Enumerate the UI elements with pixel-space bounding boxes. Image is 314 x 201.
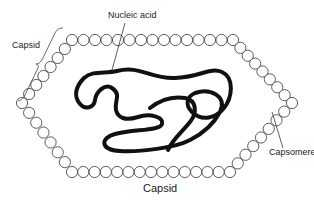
capsomere-circle xyxy=(59,157,70,168)
capsomere-circle xyxy=(38,127,49,138)
capsomere-circle xyxy=(193,34,204,45)
capsomere-circle xyxy=(45,137,56,148)
capsid-bottom-label: Capsid xyxy=(143,182,177,194)
capsomere-circle xyxy=(248,141,259,152)
capsid-side-label: Capsid xyxy=(12,40,40,50)
capsomere-circle xyxy=(89,34,100,45)
capsomere-circle xyxy=(240,149,251,160)
capsomere-circle xyxy=(101,34,112,45)
capsomere-circle xyxy=(279,106,290,117)
capsid-shell xyxy=(16,34,297,177)
capsomere-circle xyxy=(145,166,156,177)
capsomere-label: Capsomere xyxy=(269,147,314,157)
capsomere-circle xyxy=(135,34,146,45)
capsomere-circle xyxy=(157,166,168,177)
capsomere-circle xyxy=(232,158,243,169)
capsomere-circle xyxy=(263,123,274,134)
virus-structure-diagram xyxy=(0,0,314,201)
capsomere-circle xyxy=(202,166,213,177)
capsomere-circle xyxy=(89,166,100,177)
capsomere-circle xyxy=(179,166,190,177)
capsomere-circle xyxy=(158,34,169,45)
capsomere-circle xyxy=(78,34,89,45)
capsomere-circle xyxy=(100,166,111,177)
capsomere-circle xyxy=(123,166,134,177)
nucleic-acid-leader-line xyxy=(112,23,125,70)
capsomere-circle xyxy=(181,34,192,45)
capsomere-circle xyxy=(271,115,282,126)
capsomere-circle xyxy=(124,34,135,45)
capsomere-circle xyxy=(31,117,42,128)
capsomere-circle xyxy=(112,166,123,177)
capsomere-circle xyxy=(216,34,227,45)
capsomere-circle xyxy=(286,97,297,108)
capsomere-circle xyxy=(112,34,123,45)
capsomere-circle xyxy=(191,166,202,177)
capsomere-circle xyxy=(66,166,77,177)
nucleic-acid-strand-loop xyxy=(76,69,231,151)
nucleic-acid-label: Nucleic acid xyxy=(108,10,157,20)
capsomere-circle xyxy=(168,166,179,177)
capsomere-circle xyxy=(224,166,235,177)
capsomere-circle xyxy=(170,34,181,45)
capsomere-circle xyxy=(213,166,224,177)
capsomere-circle xyxy=(147,34,158,45)
capsomere-circle xyxy=(24,107,35,118)
capsomere-circle xyxy=(204,34,215,45)
capsomere-circle xyxy=(134,166,145,177)
capsomere-circle xyxy=(52,147,63,158)
capsomere-circle xyxy=(59,43,70,54)
capsomere-circle xyxy=(78,166,89,177)
capsomere-circle xyxy=(255,132,266,143)
